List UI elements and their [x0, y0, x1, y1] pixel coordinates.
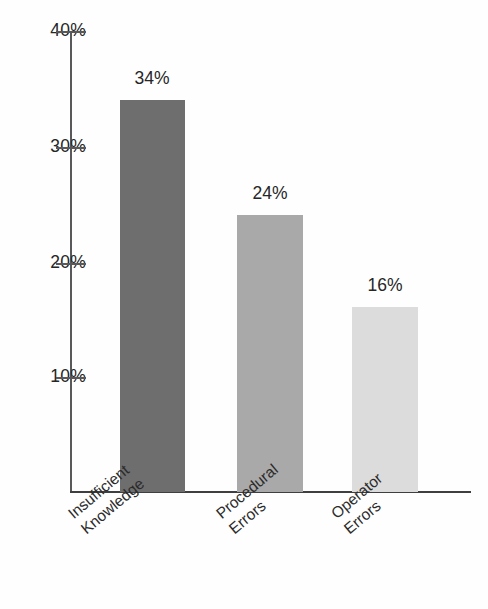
y-axis-tick-30: 30%	[0, 147, 86, 149]
bar-fill	[237, 215, 303, 492]
y-axis-tick-10: 10%	[0, 377, 86, 379]
plot-area: 40% 30% 20% 10% 34% Insufficient Knowled…	[0, 0, 488, 609]
bar-value-label-operator-errors: 16%	[330, 277, 440, 295]
bar-value-label-procedural-errors: 24%	[215, 185, 325, 203]
bar-chart: 40% 30% 20% 10% 34% Insufficient Knowled…	[0, 0, 488, 609]
bar-procedural-errors[interactable]	[237, 215, 303, 492]
y-axis-tick-40: 40%	[0, 31, 86, 33]
bar-operator-errors[interactable]	[352, 307, 418, 492]
bar-insufficient-knowledge[interactable]	[120, 100, 185, 492]
bar-fill	[352, 307, 418, 492]
y-axis-tick-20: 20%	[0, 263, 86, 265]
y-axis-tick-mark-30	[56, 147, 86, 149]
bar-value-label-insufficient-knowledge: 34%	[97, 70, 207, 88]
y-axis-tick-mark-40	[56, 31, 86, 33]
y-axis-tick-mark-20	[56, 263, 86, 265]
y-axis-tick-mark-10	[56, 377, 86, 379]
bar-fill	[120, 100, 185, 492]
